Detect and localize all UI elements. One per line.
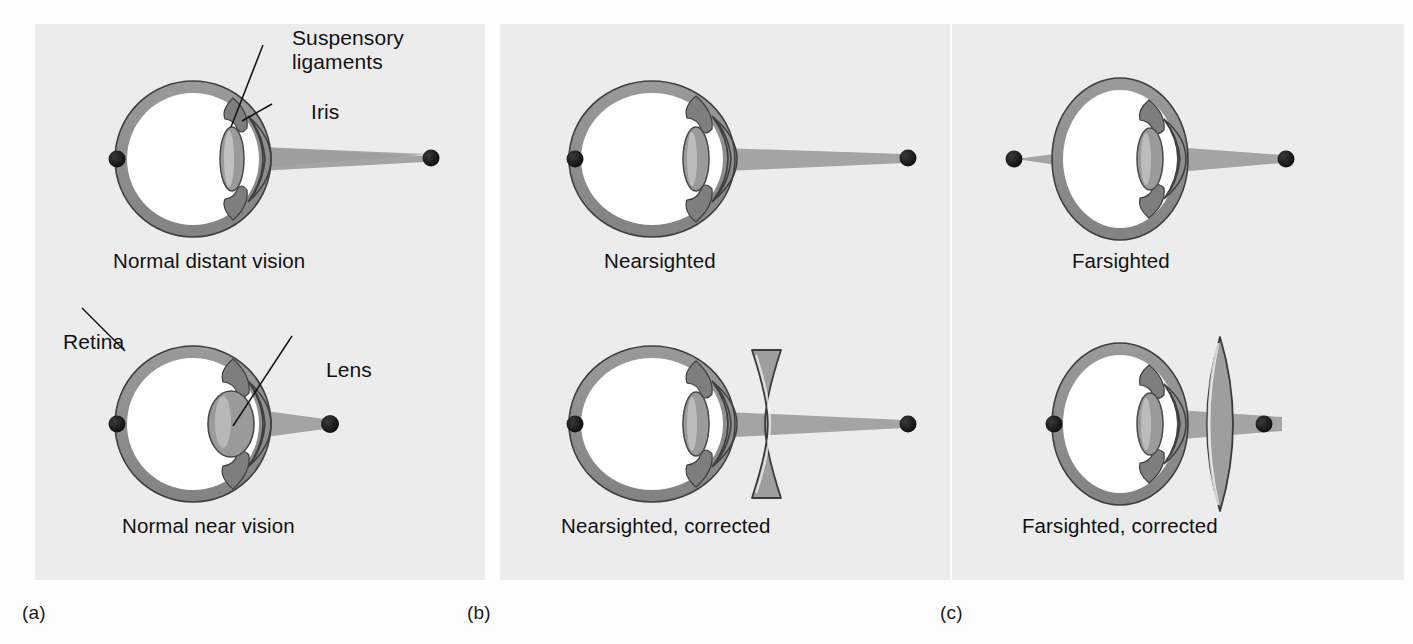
panel-b-graphics (500, 24, 950, 580)
object-point-near (321, 415, 339, 433)
panel-label-b: (b) (467, 602, 491, 624)
annotation-iris: Iris (311, 100, 339, 124)
caption-normal-near-vision: Normal near vision (122, 514, 295, 538)
diagram-nearsighted-corrected (567, 346, 917, 502)
eyeball-nearsighted-corrected (567, 346, 738, 502)
annotation-suspensory-ligaments-line2: ligaments (292, 50, 404, 74)
panel-label-a: (a) (22, 602, 46, 624)
caption-farsighted: Farsighted (1072, 249, 1170, 273)
panel-b (500, 24, 950, 580)
eyeball-normal-near (109, 346, 272, 502)
caption-normal-distant-vision: Normal distant vision (113, 249, 305, 273)
panel-c-graphics (952, 24, 1404, 580)
object-point-far (423, 150, 440, 167)
diagram-farsighted-corrected (1046, 337, 1283, 511)
eyeball-farsighted-corrected (1046, 343, 1189, 505)
diagram-normal-distant-vision (109, 45, 440, 237)
panel-label-c: (c) (940, 602, 963, 624)
object-point-far-b (900, 150, 917, 167)
panel-c (952, 24, 1404, 580)
object-point-far-b2 (900, 416, 917, 433)
eye-vision-figure: Suspensory ligaments Iris Retina Lens No… (0, 0, 1413, 644)
annotation-retina: Retina (63, 330, 124, 354)
panel-a (35, 24, 485, 580)
panel-a-graphics (35, 24, 485, 580)
eyeball-normal-distant (109, 81, 272, 237)
annotation-suspensory-ligaments: Suspensory ligaments (292, 26, 404, 73)
caption-farsighted-corrected: Farsighted, corrected (1022, 514, 1218, 538)
object-point-near-c2 (1256, 416, 1273, 433)
diagram-nearsighted (567, 81, 917, 237)
caption-nearsighted-corrected: Nearsighted, corrected (561, 514, 771, 538)
diagram-farsighted (1006, 78, 1295, 240)
eyeball-nearsighted (567, 81, 738, 237)
corrective-lens-convex (1207, 337, 1233, 511)
object-point-near-c (1278, 151, 1295, 168)
caption-nearsighted: Nearsighted (604, 249, 716, 273)
annotation-suspensory-ligaments-line1: Suspensory (292, 26, 404, 50)
annotation-lens: Lens (326, 358, 372, 382)
